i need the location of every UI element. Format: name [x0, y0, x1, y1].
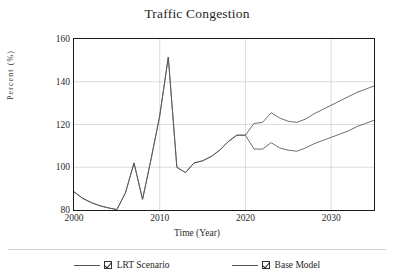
y-tick-label: 100 — [56, 162, 70, 172]
y-tick-label: 140 — [56, 77, 70, 87]
y-axis-label-wrapper: Percent (%) — [40, 40, 41, 41]
x-tick-label: 2010 — [150, 213, 169, 223]
x-tick-label: 2020 — [236, 213, 255, 223]
gridlines — [74, 39, 374, 210]
legend-checkbox-icon[interactable] — [262, 261, 270, 269]
y-tick-label: 160 — [56, 34, 70, 44]
legend-checkbox-icon[interactable] — [104, 261, 112, 269]
chart-title: Traffic Congestion — [0, 6, 394, 22]
x-tick-label: 2000 — [65, 213, 84, 223]
plot-area: 80100120140160 2000201020202030 — [73, 38, 375, 211]
series-line-base-model — [74, 57, 374, 209]
x-axis-label: Time (Year) — [0, 228, 394, 238]
legend-label: LRT Scenario — [117, 260, 170, 270]
plot-svg — [74, 39, 374, 210]
legend-line-swatch — [74, 265, 100, 266]
series-line-lrt-scenario — [74, 57, 374, 209]
legend-separator — [8, 249, 386, 250]
chart-root: Traffic Congestion Percent (%) 801001201… — [0, 0, 394, 279]
legend-item[interactable]: Base Model — [232, 260, 321, 270]
legend-label: Base Model — [275, 260, 321, 270]
data-series-group — [74, 57, 374, 209]
x-tick-label: 2030 — [322, 213, 341, 223]
y-axis-label: Percent (%) — [6, 0, 15, 100]
legend-line-swatch — [232, 265, 258, 266]
y-tick-label: 120 — [56, 120, 70, 130]
chart-legend: LRT ScenarioBase Model — [0, 255, 394, 275]
legend-item[interactable]: LRT Scenario — [74, 260, 170, 270]
